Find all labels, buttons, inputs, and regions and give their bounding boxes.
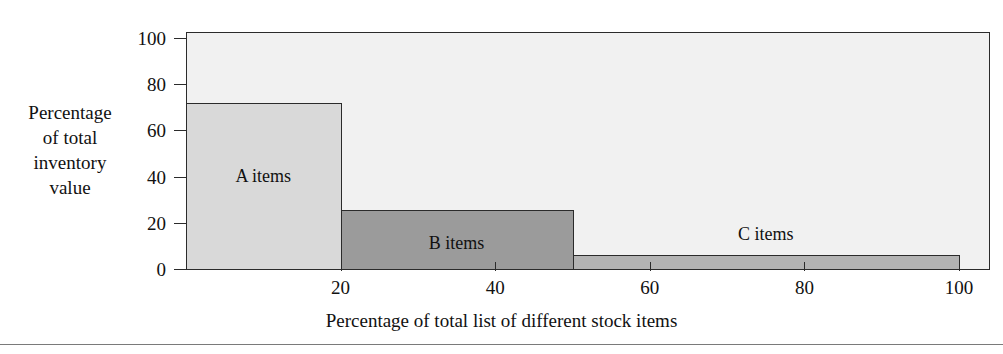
x-axis-tick [804,262,805,271]
y-axis-tick-label: 100 [118,29,166,48]
x-axis-tick-label: 100 [929,278,989,298]
x-axis-tick [341,262,342,271]
y-axis-tick-label: 80 [118,75,166,94]
x-axis-tick-label: 80 [774,278,834,298]
y-axis-tick-label: 40 [118,168,166,187]
x-axis-tick [959,262,960,271]
y-axis-tick-label: 0 [118,260,166,279]
x-axis-tick-label: 60 [620,278,680,298]
bar-c-items [574,255,961,269]
bar-label-b-items: B items [397,233,517,254]
y-axis-tick-label: 60 [118,121,166,140]
y-axis-tick-label: 20 [118,214,166,233]
x-axis-tick [495,262,496,271]
bar-label-c-items: C items [706,224,826,245]
y-axis-title-line-2: of total [8,125,132,150]
abc-inventory-chart-figure: Percentage of total inventory value 0204… [0,0,1003,354]
x-axis-tick-label: 20 [311,278,371,298]
x-axis-title: Percentage of total list of different st… [0,310,1003,332]
bottom-divider [0,344,1003,345]
bar-label-a-items: A items [203,166,323,187]
plot-area [186,32,990,270]
y-axis-title-line-4: value [8,175,132,200]
x-axis-tick [650,262,651,271]
y-axis-title: Percentage of total inventory value [8,100,132,200]
y-axis-title-line-3: inventory [8,150,132,175]
y-axis-title-line-1: Percentage [8,100,132,125]
x-axis-tick-label: 40 [465,278,525,298]
